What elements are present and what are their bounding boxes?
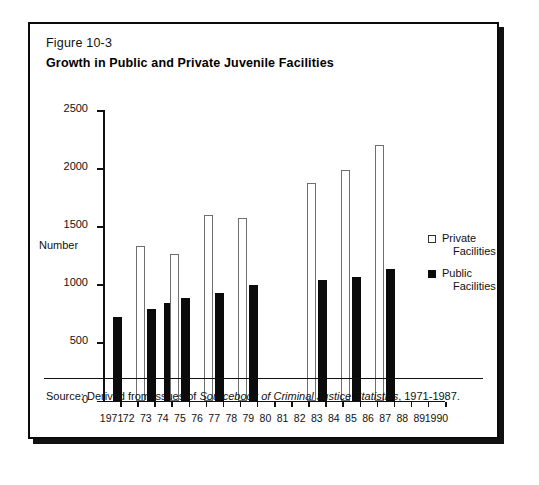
y-axis-tick-label: 1000 xyxy=(64,276,88,288)
x-axis-tick xyxy=(171,402,173,407)
y-axis-tick: 1500 xyxy=(97,226,103,228)
x-axis-tick-label: 1990 xyxy=(425,412,448,424)
x-axis-tick-label: 79 xyxy=(243,412,255,424)
x-axis-tick-label: 80 xyxy=(260,412,272,424)
y-axis-tick: 2500 xyxy=(97,110,103,112)
bar-private-77 xyxy=(204,215,213,401)
bar-public-77 xyxy=(215,293,224,400)
open-square-swatch xyxy=(428,235,436,243)
legend-item-private: PrivateFacilities xyxy=(428,232,496,258)
x-axis-tick xyxy=(223,402,225,407)
x-axis-tick xyxy=(206,402,208,407)
bar-public-79 xyxy=(249,285,258,401)
x-axis-tick xyxy=(377,402,379,407)
y-axis-tick-label: 500 xyxy=(70,334,88,346)
source-divider xyxy=(44,378,483,379)
x-axis-tick xyxy=(257,402,259,407)
x-axis-tick xyxy=(291,402,293,407)
y-axis-tick: 1000 xyxy=(97,284,103,286)
x-axis-tick xyxy=(342,402,344,407)
source-note-suffix: , 1971-1987. xyxy=(398,390,460,402)
x-axis-tick-label: 77 xyxy=(208,412,220,424)
figure-number: Figure 10-3 xyxy=(46,36,334,50)
legend-label: PublicFacilities xyxy=(442,267,496,293)
legend-label-line1: Public xyxy=(442,267,472,279)
source-note-prefix: Source: Derived from issues of xyxy=(46,390,199,402)
x-axis-tick-label: 88 xyxy=(396,412,408,424)
x-axis-tick-label: 78 xyxy=(225,412,237,424)
y-axis-tick-label: 2000 xyxy=(64,160,88,172)
x-axis-tick-label: 82 xyxy=(294,412,306,424)
x-axis-tick-label: 73 xyxy=(140,412,152,424)
x-axis-tick-label: 1971 xyxy=(100,412,123,424)
bar-public-85 xyxy=(352,277,361,400)
y-axis-tick-label: 1500 xyxy=(64,218,88,230)
x-axis-tick xyxy=(274,402,276,407)
x-axis-tick xyxy=(394,402,396,407)
x-axis-tick xyxy=(154,402,156,407)
legend-item-public: PublicFacilities xyxy=(428,267,496,293)
x-axis-tick-label: 84 xyxy=(328,412,340,424)
x-axis-tick-label: 86 xyxy=(362,412,374,424)
source-note: Source: Derived from issues of Sourceboo… xyxy=(46,390,460,402)
x-axis-tick xyxy=(137,402,139,407)
chart-legend: PrivateFacilitiesPublicFacilities xyxy=(428,232,496,302)
legend-label-line2: Facilities xyxy=(442,245,496,258)
x-axis-tick xyxy=(120,402,122,407)
x-axis-tick-label: 75 xyxy=(174,412,186,424)
x-axis-tick-label: 72 xyxy=(123,412,135,424)
x-axis-tick-label: 85 xyxy=(345,412,357,424)
legend-label-line1: Private xyxy=(442,232,476,244)
source-note-title: Sourcebook of Criminal Justice Statistic… xyxy=(199,390,398,402)
x-axis-tick-label: 89 xyxy=(414,412,426,424)
x-axis-tick xyxy=(360,402,362,407)
x-axis-tick-label: 83 xyxy=(311,412,323,424)
x-axis-tick xyxy=(325,402,327,407)
filled-square-swatch xyxy=(428,270,436,278)
x-axis-tick-label: 87 xyxy=(379,412,391,424)
bar-public-75 xyxy=(181,298,190,400)
x-axis-tick-label: 74 xyxy=(157,412,169,424)
bar-private-87 xyxy=(375,145,384,401)
bar-private-83 xyxy=(307,183,316,400)
x-axis-tick xyxy=(445,402,447,407)
figure-title: Growth in Public and Private Juvenile Fa… xyxy=(46,56,334,70)
bar-public-87 xyxy=(386,269,395,400)
x-axis-tick xyxy=(411,402,413,407)
x-axis-tick-label: 76 xyxy=(191,412,203,424)
y-axis-line xyxy=(103,110,105,402)
chart-plot-area: Number 05001000150020002500 197172737475… xyxy=(103,110,445,402)
x-axis-tick xyxy=(428,402,430,407)
bar-private-85 xyxy=(341,170,350,401)
bar-public-73 xyxy=(147,309,156,401)
figure-heading: Figure 10-3 Growth in Public and Private… xyxy=(46,36,334,70)
bar-public-83 xyxy=(318,280,327,400)
bar-private-79 xyxy=(238,218,247,401)
x-axis-tick xyxy=(240,402,242,407)
x-axis-tick xyxy=(189,402,191,407)
y-axis-title: Number xyxy=(39,239,78,251)
x-axis-tick xyxy=(308,402,310,407)
x-axis-tick-label: 81 xyxy=(277,412,289,424)
y-axis-tick-label: 2500 xyxy=(64,102,88,114)
figure-frame: Figure 10-3 Growth in Public and Private… xyxy=(28,22,499,439)
legend-label: PrivateFacilities xyxy=(442,232,496,258)
bar-public-1971 xyxy=(113,317,122,401)
y-axis-tick: 2000 xyxy=(97,168,103,170)
legend-label-line2: Facilities xyxy=(442,280,496,293)
y-axis-tick: 500 xyxy=(97,342,103,344)
